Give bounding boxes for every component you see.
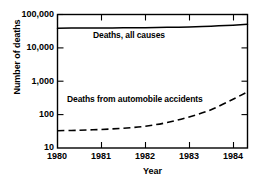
x-tick-label-1982: 1982 <box>125 151 165 161</box>
x-axis-title: Year <box>57 166 248 176</box>
x-tick-label-1981: 1981 <box>81 151 121 161</box>
x-tick-label-1984: 1984 <box>213 151 253 161</box>
annotation-all-causes: Deaths, all causes <box>93 30 165 40</box>
x-tick-label-1983: 1983 <box>169 151 209 161</box>
chart-figure: Number of deaths 100,000 10,000 1,000 10… <box>0 0 260 182</box>
series-line-all-causes <box>58 24 248 28</box>
annotation-automobile-accidents: Deaths from automobile accidents <box>67 94 203 104</box>
x-tick-label-1980: 1980 <box>37 151 77 161</box>
